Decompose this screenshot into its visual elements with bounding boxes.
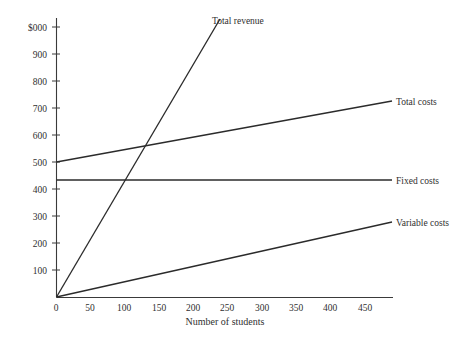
x-tick-label-150: 150 <box>152 303 167 313</box>
y-tick-label-300: 300 <box>33 212 48 222</box>
y-tick-label-100: 100 <box>33 266 48 276</box>
y-tick-label-800: 800 <box>33 77 48 87</box>
series-label-fixed-costs: Fixed costs <box>396 176 439 186</box>
y-tick-label-200: 200 <box>33 239 48 249</box>
x-tick-label-350: 350 <box>289 303 304 313</box>
x-tick-label-100: 100 <box>117 303 132 313</box>
y-tick-label-700: 700 <box>33 104 48 114</box>
x-tick-label-0: 0 <box>54 303 59 313</box>
y-tick-label-600: 600 <box>33 131 48 141</box>
chart-container: $000 900 800 700 600 500 400 300 200 100… <box>0 0 475 340</box>
series-label-variable-costs: Variable costs <box>396 218 449 228</box>
series-line-variable-costs <box>57 222 393 297</box>
x-axis-title: Number of students <box>186 316 265 327</box>
y-tick-label-500: 500 <box>33 158 48 168</box>
x-tick-label-400: 400 <box>323 303 338 313</box>
y-tick-label-1000: $000 <box>28 23 47 33</box>
x-tick-label-200: 200 <box>186 303 201 313</box>
y-tick-label-900: 900 <box>33 50 48 60</box>
x-tick-label-300: 300 <box>255 303 270 313</box>
series-line-total-costs <box>57 101 393 162</box>
break-even-chart: $000 900 800 700 600 500 400 300 200 100… <box>0 0 475 340</box>
series-label-total-costs: Total costs <box>396 97 437 107</box>
x-tick-label-50: 50 <box>85 303 95 313</box>
series-label-total-revenue: Total revenue <box>212 16 264 26</box>
x-tick-label-250: 250 <box>220 303 235 313</box>
x-tick-label-450: 450 <box>358 303 373 313</box>
y-tick-label-400: 400 <box>33 185 48 195</box>
